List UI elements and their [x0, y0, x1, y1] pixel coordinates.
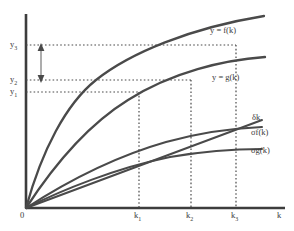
tick-k2: k2	[186, 211, 193, 222]
tick-y3: y3	[10, 40, 17, 51]
gap-arrow-head-up	[38, 43, 45, 51]
tick-k1: k1	[134, 211, 141, 222]
tick-y1-sub: 1	[14, 92, 17, 98]
label-delta-k: δk	[252, 113, 260, 122]
curve-sigma-g-k	[26, 149, 262, 208]
tick-k3-sub: 3	[235, 216, 238, 222]
tick-k2-sub: 2	[190, 216, 193, 222]
label-sigma-g-k: σg(k)	[251, 146, 270, 155]
label-x-axis: k	[277, 211, 281, 220]
chart-figure: y = f(k) y = g(k) δk σf(k) σg(k) y3 y2 y…	[0, 0, 294, 231]
tick-y3-sub: 3	[14, 45, 17, 51]
tick-y1: y1	[10, 87, 17, 98]
gap-arrow-head-down	[38, 75, 45, 83]
tick-origin: 0	[20, 211, 24, 220]
tick-y2: y2	[10, 75, 17, 86]
label-curve-f-k: y = f(k)	[210, 26, 236, 35]
tick-y2-sub: 2	[14, 80, 17, 86]
tick-k1-sub: 1	[138, 216, 141, 222]
chart-canvas	[0, 0, 294, 231]
tick-k3: k3	[231, 211, 238, 222]
label-sigma-f-k: σf(k)	[251, 128, 268, 137]
label-curve-g-k: y = g(k)	[212, 73, 239, 82]
